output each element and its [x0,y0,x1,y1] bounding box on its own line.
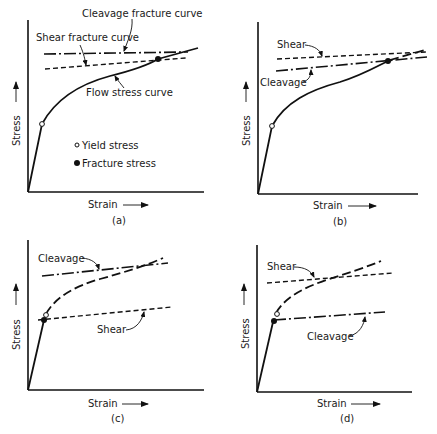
x-axis-label: Strain [317,398,347,409]
panel-c: Stress Strain (c) Cleavage Shear [11,240,204,424]
panel-a: Stress Strain (a) Cleavage fracture curv… [11,8,204,226]
yield-legend-icon [75,143,79,147]
fracture-point-marker [155,56,161,62]
yield-point-marker [275,312,280,317]
fracture-point-marker [271,318,277,324]
fracture-point-marker [41,317,47,323]
x-axis-label: Strain [313,200,343,211]
x-axis-label: Strain [88,398,118,409]
cleavage-curve-label: Cleavage fracture curve [82,8,203,19]
shear-curve-label: Shear [97,324,127,335]
shear-curve-label: Shear [277,39,307,50]
yield-point-marker [44,313,49,318]
y-axis-label: Stress [11,115,22,146]
legend: Yield stress Fracture stress [74,140,156,169]
panel-caption: (b) [333,216,347,227]
shear-leader [126,312,144,330]
shear-leader [80,45,86,65]
panel-caption: (c) [111,413,124,424]
x-axis-label: Strain [88,199,118,210]
fracture-legend-icon [74,160,80,166]
y-axis-label: Stress [11,319,22,350]
shear-leader [294,267,314,277]
cleavage-fracture-curve [274,312,385,320]
cleavage-curve-label: Cleavage [38,253,85,264]
shear-leader [305,45,322,56]
shear-fracture-curve [45,58,186,69]
flow-stress-continuation [390,50,425,60]
panel-b: Stress Strain (b) Shear Cleavage [241,22,427,227]
shear-fracture-curve [38,307,172,320]
shear-curve-label: Shear [267,261,297,272]
cleavage-curve-label: Cleavage [260,77,307,88]
legend-yield-label: Yield stress [81,140,139,151]
cleavage-fracture-curve [42,263,168,276]
elastic-line [257,322,273,392]
panel-caption: (a) [112,215,126,226]
shear-curve-label: Shear fracture curve [36,32,139,43]
panel-caption: (d) [340,413,354,424]
panel-d: Stress Strain (d) Shear Cleavage [240,245,412,424]
legend-fracture-label: Fracture stress [82,158,156,169]
cleavage-curve-label: Cleavage [307,331,354,342]
fracture-diagram-figure: Stress Strain (a) Cleavage fracture curv… [0,0,437,434]
y-axis-label: Stress [240,318,251,349]
yield-point-marker [270,124,275,129]
flow-stress-curve [46,258,163,314]
y-axis-label: Stress [241,115,252,146]
cleavage-fracture-curve [44,52,188,54]
elastic-line [28,320,44,390]
flow-curve-label: Flow stress curve [86,87,173,98]
cleavage-fracture-curve [276,57,427,71]
fracture-point-marker [385,58,391,64]
yield-point-marker [40,122,45,127]
flow-stress-curve [28,48,198,192]
